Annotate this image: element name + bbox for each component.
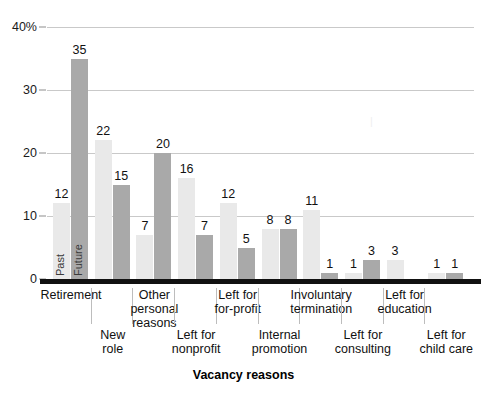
category-label-7: Left for consulting xyxy=(315,328,411,356)
category-label-6: Involuntary termination xyxy=(273,288,369,316)
bar-value-past-1: 22 xyxy=(86,124,120,138)
bar-past-8 xyxy=(387,260,404,279)
bar-value-future-4: 5 xyxy=(229,232,263,246)
y-tick-dash-10 xyxy=(39,216,46,217)
bar-value-future-0: 35 xyxy=(63,43,97,57)
category-label-2: Other personal reasons xyxy=(106,288,202,330)
series-label-future: Future xyxy=(72,244,84,276)
y-tick-label-20: 20 xyxy=(23,146,37,160)
category-label-9: Left for child care xyxy=(398,328,487,356)
category-label-0: Retirement xyxy=(23,288,119,302)
series-label-past: Past xyxy=(54,254,66,276)
bar-future-4 xyxy=(238,248,255,280)
bar-past-1 xyxy=(95,140,112,279)
x-axis-baseline xyxy=(40,279,481,284)
y-tick-dash-40 xyxy=(39,27,46,28)
vacancy-reasons-bar-chart: 40% 30 20 10 0 12Past35Future22157201671… xyxy=(0,0,487,399)
y-tick-label-40: 40% xyxy=(12,20,37,34)
category-separator-6 xyxy=(341,288,342,324)
category-label-5: Internal promotion xyxy=(232,328,328,356)
bar-value-future-3: 7 xyxy=(188,219,222,233)
bar-value-future-5: 8 xyxy=(271,213,305,227)
category-label-8: Left for education xyxy=(357,288,453,316)
bar-future-5 xyxy=(280,229,297,279)
bar-future-3 xyxy=(196,235,213,279)
bar-value-past-4: 12 xyxy=(211,187,245,201)
category-separator-0 xyxy=(91,288,92,324)
y-tick-label-10: 10 xyxy=(23,209,37,223)
bar-value-past-8: 3 xyxy=(378,244,412,258)
bar-future-7 xyxy=(363,260,380,279)
category-label-1: New role xyxy=(65,328,161,356)
bar-past-2 xyxy=(136,235,153,279)
y-tick-dash-30 xyxy=(39,90,46,91)
bar-value-past-6: 11 xyxy=(295,194,329,208)
bar-value-future-1: 15 xyxy=(104,169,138,183)
bar-past-5 xyxy=(262,229,279,279)
category-separator-2 xyxy=(174,288,175,324)
category-separator-8 xyxy=(424,288,425,324)
category-separator-4 xyxy=(258,288,259,324)
bars-layer: 12Past35Future22157201671258811113311 xyxy=(47,27,474,279)
y-axis: 40% 30 20 10 0 xyxy=(0,27,47,279)
bar-value-future-9: 1 xyxy=(438,257,472,271)
x-axis-title: Vacancy reasons xyxy=(0,368,487,382)
bar-value-future-2: 20 xyxy=(146,137,180,151)
category-label-3: Left for nonprofit xyxy=(148,328,244,356)
category-label-4: Left for for-profit xyxy=(190,288,286,316)
y-tick-label-0: 0 xyxy=(30,272,37,286)
y-tick-label-30: 30 xyxy=(23,83,37,97)
y-tick-dash-20 xyxy=(39,153,46,154)
bar-value-past-3: 16 xyxy=(170,162,204,176)
